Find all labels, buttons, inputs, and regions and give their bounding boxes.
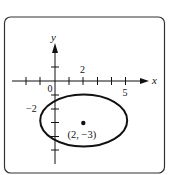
y-tick-label-neg2: −2 <box>26 103 37 114</box>
y-axis-label: y <box>50 31 56 43</box>
ellipse-diagram: x y 2 5 −2 0 (2, −3) <box>0 0 169 175</box>
x-axis-label: x <box>151 74 157 86</box>
origin-label: 0 <box>48 83 53 94</box>
center-point <box>81 121 85 125</box>
x-tick-label-5: 5 <box>123 87 128 98</box>
center-point-label: (2, −3) <box>68 129 97 141</box>
x-tick-label-2: 2 <box>80 64 85 75</box>
